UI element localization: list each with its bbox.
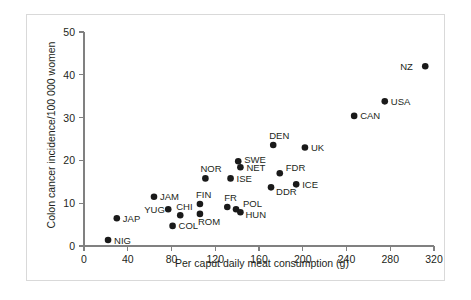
data-point-marker bbox=[233, 206, 240, 213]
data-point-label: NZ bbox=[400, 61, 413, 72]
y-tick-label: 10 bbox=[63, 197, 75, 209]
y-tick-label: 50 bbox=[63, 26, 75, 38]
data-point-marker bbox=[270, 142, 277, 149]
data-point-marker bbox=[197, 201, 204, 208]
x-axis-title: Per caput daily meat consumption (g) bbox=[175, 257, 349, 269]
data-point-label: FR bbox=[224, 192, 237, 203]
data-point-marker bbox=[276, 170, 283, 177]
data-point-label: ISE bbox=[237, 173, 252, 184]
data-point-marker bbox=[169, 223, 176, 230]
data-point-marker bbox=[293, 181, 300, 188]
data-point-label: FDR bbox=[286, 162, 306, 173]
data-points: NIGJAPCOLCHIYUGJAMROMFINHUNPOLFRDDRICENO… bbox=[105, 61, 429, 246]
y-tick-label: 20 bbox=[63, 154, 75, 166]
data-point-marker bbox=[177, 212, 184, 219]
data-point-marker bbox=[165, 206, 172, 213]
data-point-label: YUG bbox=[144, 204, 165, 215]
y-tick-label: 0 bbox=[69, 240, 75, 252]
data-point-label: COL bbox=[179, 220, 199, 231]
data-point-marker bbox=[381, 98, 388, 105]
data-point-marker bbox=[227, 175, 234, 182]
y-tick-label: 40 bbox=[63, 69, 75, 81]
x-tick-label: 280 bbox=[381, 253, 399, 265]
data-point-label: JAM bbox=[160, 191, 179, 202]
data-point-label: POL bbox=[243, 198, 262, 209]
data-point-marker bbox=[224, 204, 231, 211]
scatter-plot: 01020304050 04080120160200240280320 NIGJ… bbox=[27, 15, 444, 280]
x-tick-label: 0 bbox=[81, 253, 87, 265]
data-point-label: SWE bbox=[244, 154, 266, 165]
data-point-label: CAN bbox=[360, 110, 380, 121]
data-point-label: USA bbox=[391, 96, 411, 107]
data-point-label: NIG bbox=[114, 235, 131, 246]
data-point-marker bbox=[114, 215, 121, 222]
data-point-label: ROM bbox=[198, 216, 220, 227]
data-point-marker bbox=[237, 164, 244, 171]
data-point-label: NOR bbox=[200, 163, 221, 174]
data-point-label: CHI bbox=[176, 201, 192, 212]
data-point-label: DEN bbox=[269, 130, 289, 141]
data-point-marker bbox=[151, 193, 158, 200]
data-point-label: DDR bbox=[276, 186, 297, 197]
x-tick-label: 320 bbox=[425, 253, 443, 265]
data-point-marker bbox=[235, 158, 242, 165]
y-axis-title: Colon cancer incidence/100 000 women bbox=[45, 41, 57, 228]
data-point-marker bbox=[268, 184, 275, 191]
data-point-label: FIN bbox=[196, 189, 211, 200]
figure-panel: 01020304050 04080120160200240280320 NIGJ… bbox=[26, 14, 445, 281]
data-point-label: UK bbox=[311, 142, 325, 153]
data-point-marker bbox=[422, 63, 429, 70]
data-point-marker bbox=[351, 113, 358, 120]
x-tick-label: 40 bbox=[122, 253, 134, 265]
data-point-label: HUN bbox=[245, 209, 266, 220]
data-point-label: ICE bbox=[302, 179, 318, 190]
data-point-label: JAP bbox=[123, 213, 140, 224]
y-tick-label: 30 bbox=[63, 112, 75, 124]
data-point-marker bbox=[105, 237, 112, 244]
y-axis: 01020304050 bbox=[63, 26, 84, 252]
data-point-marker bbox=[302, 144, 309, 151]
data-point-marker bbox=[202, 175, 209, 182]
